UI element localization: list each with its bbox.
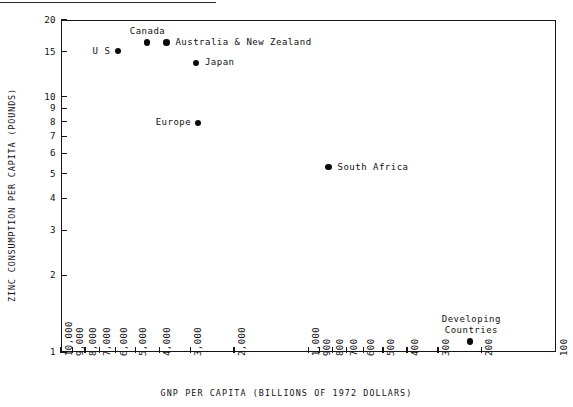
y-axis-tick-label: 6 [16, 148, 56, 157]
y-axis-tick-label: 3 [16, 225, 56, 234]
x-axis-tick-label: 400 [411, 339, 420, 356]
data-point[interactable] [467, 338, 473, 344]
scatter-plot-figure: ZINC CONSUMPTION PER CAPITA (POUNDS) GNP… [0, 0, 573, 407]
y-axis-tick-label: 20 [16, 15, 56, 24]
y-axis-tick-label: 10 [16, 92, 56, 101]
x-axis-tick [84, 347, 85, 353]
data-point-label: South Africa [338, 162, 409, 173]
x-axis-tick [481, 347, 482, 353]
x-axis-tick [135, 347, 136, 353]
y-axis-tick-label: 4 [16, 193, 56, 202]
y-axis-tick [61, 108, 67, 109]
y-axis-tick-label: 8 [16, 117, 56, 126]
y-axis-tick-label: 2 [16, 270, 56, 279]
y-axis-tick [61, 19, 67, 20]
x-axis-tick-label: 800 [336, 339, 345, 356]
x-axis-tick-label: 2,000 [238, 327, 247, 356]
x-axis-tick [233, 347, 234, 353]
x-axis-tick [437, 347, 438, 353]
x-axis-tick-label: 100 [560, 339, 569, 356]
x-axis-tick [346, 347, 347, 353]
data-point-label: U S [93, 46, 111, 57]
y-axis-tick [61, 230, 67, 231]
x-axis-tick [115, 347, 116, 353]
y-axis-tick-label: 9 [16, 103, 56, 112]
y-axis-tick-label: 1 [16, 347, 56, 356]
x-axis-tick [406, 347, 407, 353]
x-axis-tick-label: 5,000 [139, 327, 148, 356]
plot-frame [61, 20, 556, 352]
y-axis-tick [61, 173, 67, 174]
x-axis-tick [308, 347, 309, 353]
y-axis-tick [61, 121, 67, 122]
x-axis-tick [363, 347, 364, 353]
data-point[interactable] [193, 60, 199, 66]
data-point-label: Canada [130, 26, 166, 37]
x-axis-tick [60, 347, 61, 353]
y-axis-tick [61, 96, 67, 97]
data-point-label: Developing Countries [442, 314, 501, 335]
x-axis-tick-label: 500 [387, 339, 396, 356]
x-axis-tick-label: 600 [367, 339, 376, 356]
x-axis-tick-label: 6,000 [120, 327, 129, 356]
data-point[interactable] [195, 120, 201, 126]
data-point-label: Europe [156, 117, 192, 128]
x-axis-tick [99, 347, 100, 353]
x-axis-tick [319, 347, 320, 353]
x-axis-tick [332, 347, 333, 353]
x-axis-tick [72, 347, 73, 353]
data-point-label: Australia & New Zealand [175, 37, 311, 48]
x-axis-tick [382, 347, 383, 353]
x-axis-tick [190, 347, 191, 353]
y-axis-tick-label: 15 [16, 47, 56, 56]
data-point-label: Japan [205, 57, 235, 68]
data-point[interactable] [325, 164, 331, 170]
data-point[interactable] [163, 39, 169, 45]
header-rule [0, 2, 216, 3]
x-axis-tick [159, 347, 160, 353]
y-axis-tick [61, 153, 67, 154]
x-axis-tick-label: 700 [350, 339, 359, 356]
x-axis-tick-label: 8,000 [89, 327, 98, 356]
y-axis-tick [61, 198, 67, 199]
x-axis-tick-label: 4,000 [163, 327, 172, 356]
x-axis-tick-label: 300 [442, 339, 451, 356]
y-axis-tick [61, 51, 67, 52]
x-axis-title: GNP PER CAPITA (BILLIONS OF 1972 DOLLARS… [0, 388, 573, 398]
x-axis-tick-label: 200 [485, 339, 494, 356]
x-axis-tick-label: 7,000 [103, 327, 112, 356]
data-point[interactable] [144, 39, 150, 45]
y-axis-tick-label: 7 [16, 131, 56, 140]
y-axis-tick-label: 5 [16, 169, 56, 178]
y-axis-tick [61, 275, 67, 276]
x-axis-tick-label: 3,000 [194, 327, 203, 356]
y-axis-tick [61, 136, 67, 137]
